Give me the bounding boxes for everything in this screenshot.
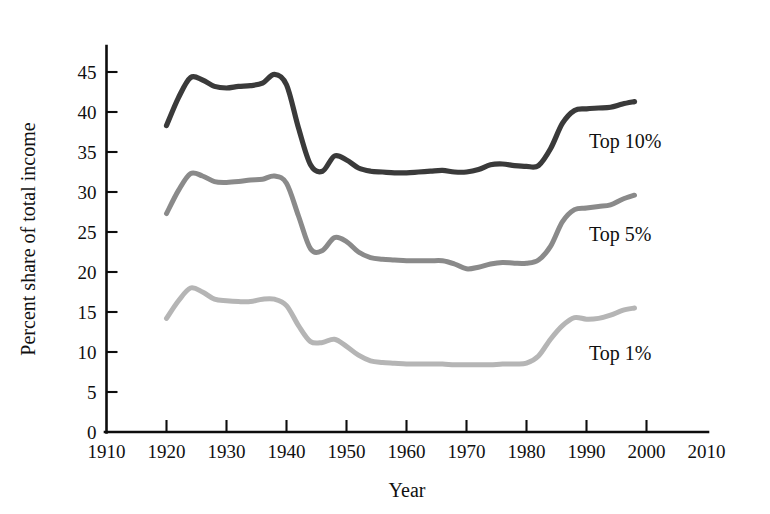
x-tick-label: 2000 — [628, 441, 666, 462]
series-label-top-5: Top 5% — [589, 223, 651, 246]
x-tick-label: 1910 — [88, 441, 126, 462]
x-tick-label: 1920 — [148, 441, 186, 462]
x-tick-label: 1990 — [568, 441, 606, 462]
x-tick-label: 2010 — [688, 441, 726, 462]
chart-canvas: 051015202530354045 191019201930194019501… — [0, 0, 770, 514]
x-axis-title: Year — [389, 479, 426, 501]
y-tick-label: 35 — [78, 142, 97, 163]
x-tick-label: 1950 — [328, 441, 366, 462]
y-tick-label: 15 — [78, 302, 97, 323]
y-tick-label: 5 — [87, 382, 97, 403]
x-tick-label: 1970 — [448, 441, 486, 462]
y-tick-label: 45 — [78, 62, 97, 83]
x-tick-label: 1960 — [388, 441, 426, 462]
y-tick-label: 10 — [78, 342, 97, 363]
y-tick-label: 30 — [78, 182, 97, 203]
x-axis-tick-labels: 1910192019301940195019601970198019902000… — [88, 441, 726, 462]
x-tick-label: 1980 — [508, 441, 546, 462]
x-axis-ticks — [167, 420, 647, 432]
income-share-line-chart: 051015202530354045 191019201930194019501… — [0, 0, 770, 514]
y-tick-label: 0 — [87, 422, 97, 443]
series-lines-group — [167, 74, 635, 364]
series-line-top-5 — [167, 173, 635, 269]
series-line-top-1 — [167, 288, 635, 365]
x-tick-label: 1940 — [268, 441, 306, 462]
y-tick-label: 40 — [78, 102, 97, 123]
series-label-top-1: Top 1% — [589, 342, 651, 365]
series-label-top-10: Top 10% — [589, 130, 661, 153]
y-tick-label: 25 — [78, 222, 97, 243]
y-axis-tick-labels: 051015202530354045 — [78, 62, 97, 443]
series-line-top-10 — [167, 74, 635, 173]
y-axis-ticks — [107, 72, 118, 392]
x-tick-label: 1930 — [208, 441, 246, 462]
y-tick-label: 20 — [78, 262, 97, 283]
y-axis-title: Percent share of total income — [17, 122, 39, 355]
